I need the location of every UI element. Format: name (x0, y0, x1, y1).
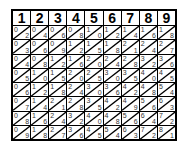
lattice-cell: 14 (122, 26, 139, 39)
tens-digit: 3 (105, 69, 109, 76)
tens-digit: 1 (141, 26, 145, 33)
lattice-cell: 54 (158, 83, 175, 96)
tens-digit: 2 (50, 126, 54, 133)
ones-digit: 4 (170, 89, 174, 96)
column-header-4: 4 (67, 11, 84, 25)
tens-digit: 1 (86, 40, 90, 47)
tens-digit: 1 (68, 55, 72, 62)
lattice-cell: 24 (104, 55, 121, 68)
tens-digit: 2 (50, 97, 54, 104)
ones-digit: 9 (61, 47, 65, 54)
ones-digit: 0 (98, 32, 102, 39)
ones-digit: 8 (152, 89, 156, 96)
ones-digit: 6 (43, 47, 47, 54)
lattice-cell: 81 (158, 126, 175, 139)
tens-digit: 0 (50, 26, 54, 33)
lattice-cell: 45 (85, 126, 102, 139)
tens-digit: 2 (141, 40, 145, 47)
ones-digit: 8 (116, 118, 120, 125)
ones-digit: 0 (98, 118, 102, 125)
tens-digit: 5 (123, 112, 127, 119)
tens-digit: 2 (50, 112, 54, 119)
tens-digit: 2 (105, 55, 109, 62)
lattice-cell: 48 (104, 112, 121, 125)
ones-digit: 6 (116, 89, 120, 96)
tens-digit: 4 (123, 97, 127, 104)
tens-digit: 1 (68, 40, 72, 47)
column-header-3: 3 (49, 11, 66, 25)
ones-digit: 8 (43, 132, 47, 139)
ones-digit: 0 (98, 61, 102, 68)
lattice-cell: 25 (85, 69, 102, 82)
ones-digit: 3 (170, 104, 174, 111)
ones-digit: 9 (25, 132, 29, 139)
tens-digit: 3 (159, 55, 163, 62)
lattice-cell: 05 (13, 69, 30, 82)
lattice-cell: 04 (31, 26, 48, 39)
ones-digit: 4 (134, 32, 138, 39)
ones-digit: 5 (98, 47, 102, 54)
column-header-5: 5 (85, 11, 102, 25)
tens-digit: 7 (141, 126, 145, 133)
ones-digit: 0 (98, 89, 102, 96)
lattice-cell: 07 (13, 97, 30, 110)
ones-digit: 2 (152, 132, 156, 139)
tens-digit: 0 (14, 83, 18, 90)
tens-digit: 3 (123, 69, 127, 76)
lattice-cell: 35 (122, 69, 139, 82)
lattice-cell: 72 (140, 126, 157, 139)
ones-digit: 5 (170, 75, 174, 82)
ones-digit: 3 (134, 132, 138, 139)
tens-digit: 2 (159, 40, 163, 47)
tens-digit: 3 (86, 83, 90, 90)
ones-digit: 2 (43, 89, 47, 96)
lattice-cell: 02 (13, 26, 30, 39)
tens-digit: 0 (50, 40, 54, 47)
ones-digit: 5 (98, 75, 102, 82)
ones-digit: 6 (43, 118, 47, 125)
lattice-cell: 08 (67, 26, 84, 39)
lattice-cell: 10 (31, 69, 48, 82)
lattice-cell: 18 (104, 40, 121, 53)
ones-digit: 0 (43, 75, 47, 82)
tens-digit: 5 (159, 83, 163, 90)
ones-digit: 4 (43, 104, 47, 111)
ones-digit: 2 (134, 89, 138, 96)
tens-digit: 0 (14, 40, 18, 47)
ones-digit: 7 (25, 104, 29, 111)
tens-digit: 1 (32, 97, 36, 104)
tens-digit: 0 (14, 112, 18, 119)
tens-digit: 1 (50, 69, 54, 76)
tens-digit: 7 (159, 112, 163, 119)
column-header-7: 7 (122, 11, 139, 25)
ones-digit: 4 (116, 61, 120, 68)
ones-digit: 6 (170, 61, 174, 68)
ones-digit: 1 (134, 47, 138, 54)
ones-digit: 4 (80, 89, 84, 96)
ones-digit: 6 (152, 32, 156, 39)
column-header-8: 8 (140, 11, 157, 25)
tens-digit: 3 (105, 83, 109, 90)
lattice-cell: 16 (31, 112, 48, 125)
tens-digit: 5 (105, 126, 109, 133)
lattice-cell: 36 (104, 83, 121, 96)
lattice-cell: 18 (31, 126, 48, 139)
tens-digit: 4 (86, 112, 90, 119)
ones-digit: 1 (61, 104, 65, 111)
tens-digit: 6 (159, 97, 163, 104)
tens-digit: 4 (159, 69, 163, 76)
tens-digit: 0 (14, 126, 18, 133)
tens-digit: 4 (141, 83, 145, 90)
tens-digit: 1 (105, 40, 109, 47)
ones-digit: 8 (43, 61, 47, 68)
ones-digit: 4 (116, 132, 120, 139)
lattice-cell: 48 (140, 83, 157, 96)
ones-digit: 2 (116, 104, 120, 111)
tens-digit: 5 (141, 97, 145, 104)
lattice-cell: 56 (140, 97, 157, 110)
tens-digit: 0 (14, 55, 18, 62)
lattice-cell: 54 (104, 126, 121, 139)
tens-digit: 2 (86, 69, 90, 76)
ones-digit: 4 (43, 32, 47, 39)
ones-digit: 7 (170, 47, 174, 54)
